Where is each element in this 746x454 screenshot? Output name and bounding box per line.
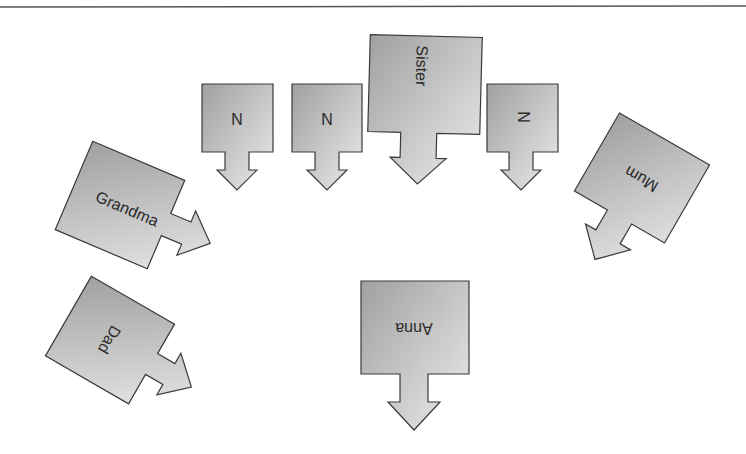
down-arrow-box-shape: [292, 84, 362, 190]
node-label: N: [231, 110, 243, 127]
node-n1[interactable]: N: [202, 84, 273, 190]
family-diagram: N N Sister N Mum Grandma Dad Anna: [0, 0, 746, 454]
node-n3[interactable]: N: [487, 84, 558, 190]
node-anna[interactable]: Anna: [361, 281, 469, 430]
node-label: N: [321, 110, 333, 127]
right-arrow-box-shape: [45, 276, 214, 427]
node-dad[interactable]: Dad: [45, 276, 214, 427]
down-arrow-box-shape: [487, 84, 558, 190]
node-n2[interactable]: N: [292, 84, 362, 190]
down-arrow-box-shape: [202, 84, 273, 190]
node-label: Sister: [413, 45, 431, 87]
node-label: Anna: [395, 320, 432, 337]
down-arrow-box-shape: [361, 281, 469, 430]
node-grandma[interactable]: Grandma: [55, 141, 229, 287]
top-rule: [0, 6, 746, 7]
down-arrow-box-shape: [550, 113, 710, 285]
node-label: N: [515, 111, 532, 123]
node-mum[interactable]: Mum: [550, 113, 710, 285]
node-sister[interactable]: Sister: [366, 35, 482, 186]
